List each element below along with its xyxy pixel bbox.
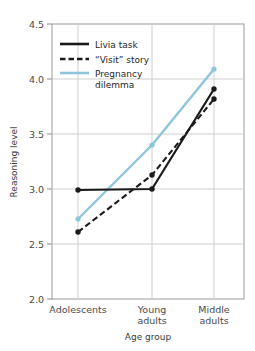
reasoning-level-line-chart: 4.5 4.0 3.5 3.0 2.5 2.0 Reasoning level … — [0, 0, 255, 351]
data-point-livia-adolescents — [75, 187, 80, 192]
y-axis-title: Reasoning level — [9, 127, 19, 198]
data-point-pregnancy-young-adults — [149, 142, 154, 147]
legend-label-pregnancy-dilemma-line2: dilemma — [95, 80, 134, 90]
ytick-label-2.0: 2.0 — [29, 294, 44, 305]
xtick-label-young: Young — [137, 304, 166, 315]
ytick-label-3.5: 3.5 — [29, 129, 44, 140]
legend-label-visit-story: “Visit” story — [95, 55, 150, 65]
xtick-label-young-line2: adults — [137, 315, 166, 326]
data-point-pregnancy-adolescents — [75, 216, 80, 221]
ytick-label-2.5: 2.5 — [29, 239, 44, 250]
x-axis-title: Age group — [125, 332, 172, 342]
xtick-label-middle-line2: adults — [199, 315, 228, 326]
plot-area-border — [52, 24, 244, 299]
xtick-label-adolescents: Adolescents — [49, 304, 106, 315]
chart-figure: 4.5 4.0 3.5 3.0 2.5 2.0 Reasoning level … — [0, 0, 255, 351]
data-point-livia-middle-adults — [211, 86, 216, 91]
legend-label-pregnancy-dilemma: Pregnancy — [95, 69, 143, 79]
xtick-label-middle: Middle — [198, 304, 230, 315]
ytick-label-4.0: 4.0 — [29, 74, 44, 85]
data-point-visit-young-adults — [149, 172, 154, 177]
ytick-label-4.5: 4.5 — [29, 19, 44, 30]
legend-label-livia-task: Livia task — [95, 40, 138, 50]
data-point-livia-young-adults — [149, 186, 154, 191]
data-point-pregnancy-middle-adults — [211, 66, 216, 71]
data-point-visit-middle-adults — [211, 96, 216, 101]
ytick-label-3.0: 3.0 — [29, 184, 44, 195]
data-point-visit-adolescents — [75, 229, 80, 234]
